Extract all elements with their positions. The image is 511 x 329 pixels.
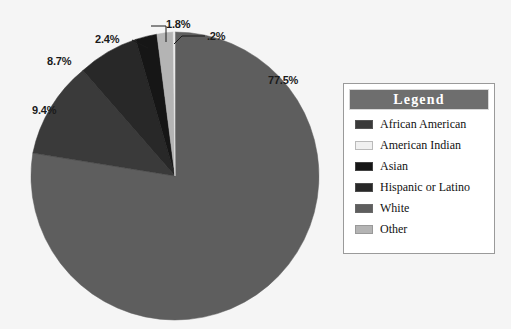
- legend-item-white: White: [349, 198, 489, 219]
- legend-swatch-icon-other: [355, 225, 373, 234]
- legend-label-american-indian: American Indian: [380, 138, 461, 153]
- legend-label-asian: Asian: [380, 159, 408, 174]
- legend-item-hispanic-or-latino: Hispanic or Latino: [349, 177, 489, 198]
- legend-swatch-icon-hispanic-or-latino: [355, 183, 373, 192]
- slice-label-african-american: 8.7%: [47, 55, 71, 67]
- legend-swatch-icon-white: [355, 204, 373, 213]
- legend-list: African American American Indian Asian H…: [349, 114, 489, 240]
- legend-swatch-icon-american-indian: [355, 141, 373, 150]
- slice-label-white: 77.5%: [268, 74, 298, 86]
- legend-item-african-american: African American: [349, 114, 489, 135]
- legend-item-asian: Asian: [349, 156, 489, 177]
- legend-title: Legend: [393, 92, 445, 108]
- legend-label-african-american: African American: [380, 117, 466, 132]
- slice-label-other: 1.8%: [166, 18, 190, 30]
- legend-box: Legend African American American Indian …: [343, 83, 495, 254]
- slice-label-hispanic-or-latino: 9.4%: [32, 104, 56, 116]
- legend-item-other: Other: [349, 219, 489, 240]
- legend-label-white: White: [380, 201, 409, 216]
- slice-label-american-indian: .2%: [207, 30, 225, 42]
- legend-swatch-icon-asian: [355, 162, 373, 171]
- legend-item-american-indian: American Indian: [349, 135, 489, 156]
- pie-svg: [0, 0, 340, 329]
- legend-swatch-icon-african-american: [355, 120, 373, 129]
- legend-label-other: Other: [380, 222, 407, 237]
- pie-plot-area: 77.5% 9.4% 8.7% 2.4% 1.8% .2%: [0, 0, 340, 329]
- legend-label-hispanic-or-latino: Hispanic or Latino: [380, 180, 470, 195]
- legend-title-bar: Legend: [349, 89, 489, 110]
- pie-chart-figure: 77.5% 9.4% 8.7% 2.4% 1.8% .2% Legend Afr…: [0, 0, 511, 329]
- slice-label-asian: 2.4%: [95, 33, 119, 45]
